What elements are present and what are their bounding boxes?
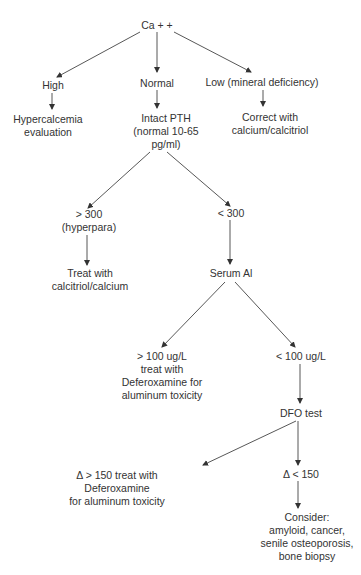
node-line: Serum Al (210, 267, 253, 280)
node-treat-calcitriol: Treat with calcitriol/calcium (52, 267, 128, 293)
node-line: calcium/calcitriol (232, 124, 308, 137)
node-line: amyloid, cancer, (261, 524, 354, 537)
arrow-pth-lt300 (167, 152, 230, 206)
node-delta-gt150: Δ > 150 treat with Deferoxamine for alum… (69, 469, 165, 508)
arrow-dfo-gt150 (203, 421, 296, 465)
node-line: > 100 ug/L (122, 350, 203, 363)
node-line: Deferoxamine (69, 482, 165, 495)
node-low-line: Low (mineral deficiency) (205, 76, 318, 89)
node-line: evaluation (13, 126, 82, 139)
node-line: < 100 ug/L (276, 350, 326, 363)
arrow-pth-gt300 (88, 152, 150, 208)
arrow-serum-gt100 (162, 282, 225, 347)
node-line: (normal 10-65 (133, 125, 198, 138)
arrow-serum-lt100 (235, 282, 295, 347)
node-high: High (42, 79, 64, 92)
node-dfo-test: DFO test (280, 407, 322, 420)
node-high-line: High (42, 79, 64, 92)
node-line: (hyperpara) (62, 221, 116, 234)
node-al-gt100: > 100 ug/L treat with Deferoxamine for a… (122, 350, 203, 402)
node-line: Treat with (52, 267, 128, 280)
node-calcium: Ca + + (141, 19, 173, 32)
node-line: Correct with (232, 111, 308, 124)
node-line: bone biopsy (261, 550, 354, 563)
node-al-lt100: < 100 ug/L (276, 350, 326, 363)
node-line: > 300 (62, 208, 116, 221)
node-intact-pth: Intact PTH (normal 10-65 pg/ml) (133, 112, 198, 151)
node-line: calcitriol/calcium (52, 280, 128, 293)
node-line: DFO test (280, 407, 322, 420)
node-line: Consider: (261, 511, 354, 524)
node-pth-gt300: > 300 (hyperpara) (62, 208, 116, 234)
node-line: Hypercalcemia (13, 113, 82, 126)
node-line: Δ > 150 treat with (69, 469, 165, 482)
node-hypercalcemia-evaluation: Hypercalcemia evaluation (13, 113, 82, 139)
node-serum-al: Serum Al (210, 267, 253, 280)
node-line: < 300 (218, 207, 245, 220)
arrow-root-high (57, 32, 140, 77)
node-correct-calcium: Correct with calcium/calcitriol (232, 111, 308, 137)
node-line: senile osteoporosis, (261, 537, 354, 550)
node-line: aluminum toxicity (122, 389, 203, 402)
node-delta-lt150: Δ < 150 (283, 468, 319, 481)
node-low: Low (mineral deficiency) (205, 76, 318, 89)
node-line: pg/ml) (133, 138, 198, 151)
node-pth-lt300: < 300 (218, 207, 245, 220)
node-line: Deferoxamine for (122, 376, 203, 389)
node-line: for aluminum toxicity (69, 495, 165, 508)
arrow-root-low (174, 32, 251, 72)
node-line: Intact PTH (133, 112, 198, 125)
node-calcium-line: Ca + + (141, 19, 173, 32)
node-normal-line: Normal (140, 77, 174, 90)
node-line: treat with (122, 363, 203, 376)
node-consider: Consider: amyloid, cancer, senile osteop… (261, 511, 354, 563)
node-normal: Normal (140, 77, 174, 90)
node-line: Δ < 150 (283, 468, 319, 481)
